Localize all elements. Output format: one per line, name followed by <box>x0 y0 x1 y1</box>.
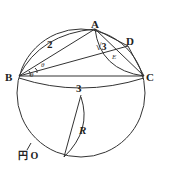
segment-bd <box>19 46 128 76</box>
point-a-label: A <box>91 18 99 30</box>
theta-label-2: θ <box>30 71 34 79</box>
angle-arc-2 <box>35 68 37 73</box>
edge-bc-label: 3 <box>76 82 82 94</box>
segment-ab <box>19 29 95 76</box>
point-c-label: C <box>146 71 154 83</box>
circle-label-leader <box>27 143 31 150</box>
arc-bc-label <box>19 78 144 88</box>
point-d-label: D <box>126 35 134 47</box>
circle-o-label: 円 O <box>18 150 39 161</box>
geometry-diagram: A B C D 2 √3 3 R θ θ E 円 O <box>0 0 170 178</box>
point-b-label: B <box>5 71 13 83</box>
edge-ac-label: √3 <box>96 41 107 52</box>
point-e-label: E <box>111 53 117 61</box>
theta-label-1: θ <box>41 61 45 69</box>
radius-label: R <box>78 124 86 136</box>
edge-ab-label: 2 <box>47 38 53 50</box>
segment-dc <box>128 46 144 76</box>
